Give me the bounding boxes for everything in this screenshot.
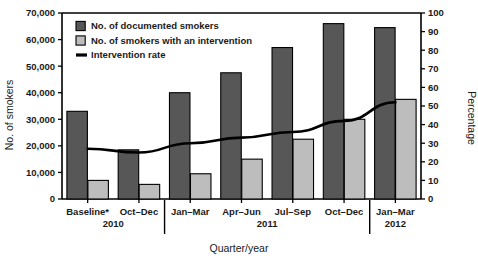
y-axis-left: 010,00020,00030,00040,00050,00060,00070,… (26, 7, 62, 204)
bar-smokers-with-intervention (293, 139, 314, 199)
y-tick-label-left: 20,000 (26, 140, 55, 151)
x-group-year-label: 2010 (103, 218, 124, 229)
bar-smokers-with-intervention (242, 159, 263, 199)
y-tick-label-right: 70 (428, 63, 439, 74)
legend-item-label: No. of documented smokers (91, 20, 219, 31)
bar-documented-smokers (118, 150, 139, 199)
y-tick-label-left: 50,000 (26, 61, 55, 72)
bar-smokers-with-intervention (190, 174, 211, 199)
x-tick-label: Baseline* (66, 206, 109, 217)
bar-smokers-with-intervention (344, 119, 365, 199)
bar-documented-smokers (67, 111, 88, 199)
y-axis-right: 0102030405060708090100 (421, 7, 444, 204)
bar-smokers-with-intervention (88, 180, 109, 199)
legend-square-marker-icon (76, 36, 85, 45)
y-axis-left-title: No. of smokers (3, 80, 15, 151)
y-tick-label-left: 10,000 (26, 167, 55, 178)
y-tick-label-right: 50 (428, 100, 439, 111)
x-group-year-label: 2012 (385, 218, 406, 229)
bar-smokers-with-intervention (396, 99, 417, 199)
y-tick-label-right: 60 (428, 82, 439, 93)
y-tick-label-right: 20 (428, 156, 439, 167)
y-tick-label-right: 10 (428, 175, 439, 186)
x-tick-label: Apr–Jun (222, 206, 261, 217)
legend-item-label: Intervention rate (91, 49, 165, 60)
y-tick-label-right: 90 (428, 26, 439, 37)
legend-item-label: No. of smokers with an intervention (91, 35, 252, 46)
chart-container: 010,00020,00030,00040,00050,00060,00070,… (0, 0, 478, 265)
y-tick-label-right: 40 (428, 119, 439, 130)
y-tick-label-left: 0 (50, 193, 55, 204)
legend-square-marker-icon (76, 21, 85, 30)
bar-documented-smokers (221, 73, 242, 199)
x-tick-label: Oct–Dec (120, 206, 159, 217)
x-tick-label: Jan–Mar (171, 206, 210, 217)
y-tick-label-right: 0 (428, 193, 433, 204)
y-tick-label-left: 40,000 (26, 87, 55, 98)
y-tick-label-left: 30,000 (26, 114, 55, 125)
x-tick-label: Jan–Mar (376, 206, 415, 217)
x-tick-label: Jul–Sep (275, 206, 312, 217)
x-tick-label: Oct–Dec (325, 206, 364, 217)
x-axis-title: Quarter/year (210, 242, 269, 254)
y-tick-label-left: 60,000 (26, 34, 55, 45)
bar-documented-smokers (323, 24, 344, 199)
y-tick-label-right: 30 (428, 138, 439, 149)
x-group-year-label: 2011 (257, 218, 278, 229)
bar-documented-smokers (375, 28, 396, 199)
chart-legend: No. of documented smokersNo. of smokers … (76, 20, 252, 60)
y-axis-right-title: Percentage (466, 91, 478, 145)
y-tick-label-right: 100 (428, 7, 444, 18)
bar-smokers-with-intervention (139, 184, 160, 199)
smoker-intervention-chart: 010,00020,00030,00040,00050,00060,00070,… (0, 0, 478, 265)
bar-documented-smokers (272, 48, 293, 199)
y-tick-label-left: 70,000 (26, 7, 55, 18)
y-tick-label-right: 80 (428, 45, 439, 56)
x-axis: Baseline*Oct–DecJan–MarApr–JunJul–SepOct… (66, 199, 415, 234)
